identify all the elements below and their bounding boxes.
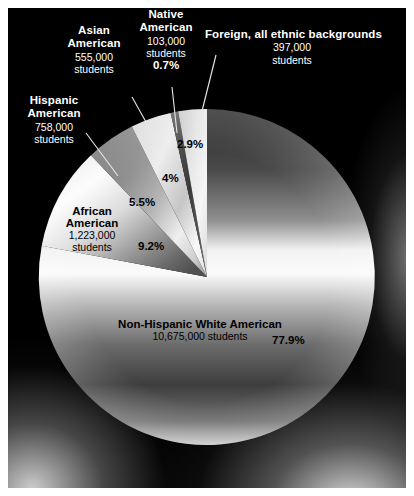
label-non-hispanic-white-american-count: 10,675,000 students — [110, 330, 290, 342]
pie-rim-shine — [39, 109, 375, 445]
label-hispanic-american: Hispanic American 758,000 students — [10, 94, 98, 145]
percent-foreign: 2.9% — [177, 138, 203, 150]
label-hispanic-american-line1: Hispanic — [10, 94, 98, 107]
label-native-american-count: 103,000 — [126, 35, 206, 47]
label-native-american: Native American 103,000 students 0.7% — [126, 8, 206, 72]
label-african-american-line1: African — [50, 205, 134, 217]
label-native-american-unit: students — [126, 47, 206, 59]
label-hispanic-american-line2: American — [10, 107, 98, 120]
label-native-american-line1: Native — [126, 8, 206, 21]
label-african-american-unit: students — [50, 241, 134, 253]
percent-african-american: 9.2% — [138, 240, 164, 252]
label-native-american-percent: 0.7% — [126, 59, 206, 72]
chart-canvas: Asian American 555,000 students Native A… — [0, 0, 414, 496]
label-african-american-count: 1,223,000 — [50, 229, 134, 241]
percent-non-hispanic-white-american: 77.9% — [272, 334, 305, 346]
label-african-american-line2: American — [50, 217, 134, 229]
label-native-american-line2: American — [126, 21, 206, 34]
label-african-american: African American 1,223,000 students — [50, 205, 134, 253]
label-foreign-count: 397,000 — [233, 41, 351, 53]
label-foreign-title: Foreign, all ethnic backgrounds — [205, 28, 397, 41]
label-non-hispanic-white-american-title: Non-Hispanic White American — [110, 318, 290, 330]
label-foreign-unit: students — [233, 54, 351, 66]
label-hispanic-american-unit: students — [10, 133, 98, 145]
label-non-hispanic-white-american: Non-Hispanic White American 10,675,000 s… — [110, 318, 290, 342]
percent-asian-american: 4% — [162, 172, 179, 184]
percent-hispanic-american: 5.5% — [129, 196, 155, 208]
label-foreign: Foreign, all ethnic backgrounds 397,000 … — [205, 28, 397, 66]
label-hispanic-american-count: 758,000 — [10, 121, 98, 133]
